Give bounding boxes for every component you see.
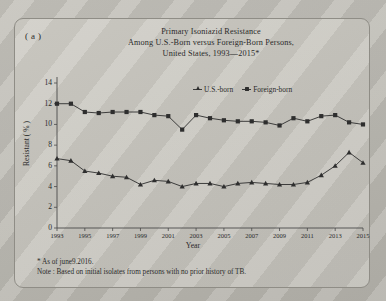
data-point: [333, 113, 337, 117]
y-tick-12: 12: [38, 99, 52, 108]
x-tick-1993: 1993: [44, 232, 70, 239]
x-tick-2005: 2005: [211, 232, 237, 239]
data-point: [194, 113, 198, 117]
figure-panel: ( a ) Primary Isoniazid Resistance Among…: [14, 18, 370, 288]
y-tick-2: 2: [38, 202, 52, 211]
data-point: [361, 122, 365, 126]
x-tick-2009: 2009: [267, 232, 293, 239]
data-point: [111, 110, 115, 114]
data-point: [277, 123, 281, 127]
data-point: [208, 116, 212, 120]
x-tick-1997: 1997: [100, 232, 126, 239]
data-point: [124, 110, 128, 114]
x-tick-2007: 2007: [239, 232, 265, 239]
x-tick-2015: 2015: [350, 232, 376, 239]
data-point: [138, 110, 142, 114]
x-tick-2011: 2011: [294, 232, 320, 239]
data-point: [55, 102, 59, 106]
data-point: [264, 120, 268, 124]
data-point: [83, 110, 87, 114]
data-point: [166, 114, 170, 118]
y-tick-8: 8: [38, 140, 52, 149]
data-point: [236, 119, 240, 123]
data-point: [69, 102, 73, 106]
series-u-s-born: [54, 150, 365, 189]
data-point: [152, 113, 156, 117]
data-point: [180, 128, 184, 132]
x-tick-2003: 2003: [183, 232, 209, 239]
plot-area: Resistant ( % ) Year 02468101214 1993199…: [15, 19, 371, 289]
footnote-asterisk: * As of june9.2016.: [37, 257, 367, 267]
data-point: [97, 111, 101, 115]
x-tick-1999: 1999: [127, 232, 153, 239]
data-point: [347, 120, 351, 124]
data-point: [222, 118, 226, 122]
y-tick-14: 14: [38, 78, 52, 87]
footnote-note: Note : Based on initial isolates from pe…: [37, 267, 367, 277]
data-point: [291, 116, 295, 120]
y-tick-0: 0: [38, 223, 52, 232]
data-point: [305, 119, 309, 123]
data-point: [319, 114, 323, 118]
y-tick-6: 6: [38, 161, 52, 170]
data-point: [305, 180, 310, 185]
x-tick-1995: 1995: [72, 232, 98, 239]
series-foreign-born: [55, 102, 365, 132]
data-point: [54, 156, 59, 161]
x-tick-2001: 2001: [155, 232, 181, 239]
y-tick-4: 4: [38, 182, 52, 191]
x-axis-label: Year: [15, 241, 371, 250]
y-tick-10: 10: [38, 119, 52, 128]
figure-notes: * As of june9.2016. Note : Based on init…: [37, 257, 367, 277]
data-point: [250, 119, 254, 123]
x-tick-2013: 2013: [322, 232, 348, 239]
data-point: [319, 173, 324, 178]
y-axis-label: Resistant ( % ): [22, 121, 31, 166]
data-point: [346, 150, 351, 155]
